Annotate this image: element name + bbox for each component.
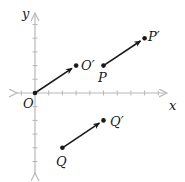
translation-arrow [104,41,141,66]
translation-arrow [62,123,99,148]
start-point-dot [33,91,38,96]
translation-diagram: x y O O′ P P′ Q Q′ [0,0,185,182]
p-prime-label: P′ [147,29,160,44]
start-point-dot [60,146,65,151]
origin-label: O [23,96,34,111]
end-point-dot [101,118,106,123]
q-prime-label: Q′ [110,114,124,129]
end-point-dot [74,63,79,68]
x-axis-label: x [169,98,177,113]
o-prime-label: O′ [81,58,95,73]
y-axis-label: y [21,6,30,21]
p-label: P [97,70,107,85]
q-label: Q [56,154,67,169]
translation-arrow [35,68,72,93]
start-point-dot [101,63,106,68]
end-point-dot [142,36,147,41]
